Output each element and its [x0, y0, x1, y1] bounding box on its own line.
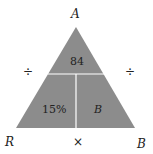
- cell-bottom-right-value: B: [94, 104, 102, 115]
- cell-top-value: 84: [70, 56, 84, 67]
- vertex-label-bottom-right: B: [137, 138, 146, 150]
- vertex-label-top: A: [71, 8, 80, 20]
- divide-operator-left: ÷: [23, 66, 33, 78]
- multiply-operator-bottom: ×: [73, 136, 83, 148]
- cell-bottom-left-value: 15%: [42, 104, 66, 115]
- divide-operator-right: ÷: [125, 66, 135, 78]
- vertex-label-bottom-left: R: [5, 136, 14, 148]
